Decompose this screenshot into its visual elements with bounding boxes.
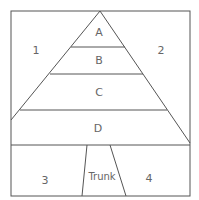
- label-1: 1: [33, 44, 40, 57]
- label-2: 2: [158, 44, 165, 57]
- label-trunk: Trunk: [87, 171, 115, 182]
- label-b: B: [95, 54, 103, 67]
- triangle-right-edge: [100, 11, 190, 143]
- triangle-left-edge: [11, 11, 100, 120]
- label-3: 3: [42, 174, 49, 187]
- label-d: D: [94, 122, 102, 135]
- label-a: A: [95, 26, 103, 39]
- tree-diagram: A B C D 1 2 3 4 Trunk: [0, 0, 199, 200]
- label-4: 4: [146, 172, 153, 185]
- label-c: C: [95, 86, 103, 99]
- trunk-left-edge: [82, 145, 87, 196]
